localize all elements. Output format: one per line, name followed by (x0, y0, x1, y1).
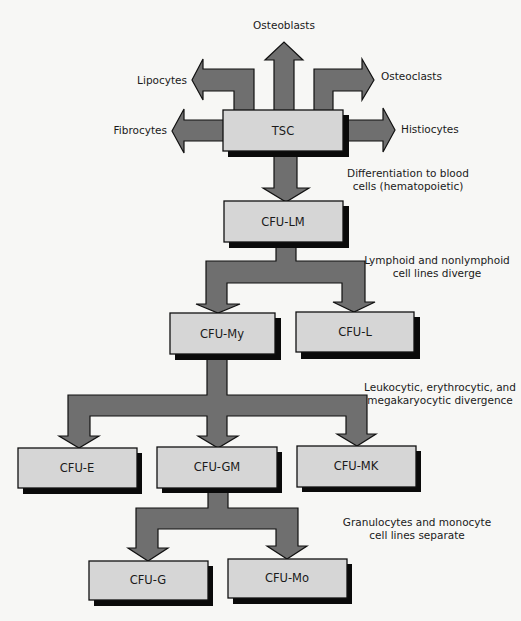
node-cfu-e-label: CFU-E (60, 461, 94, 475)
node-cfu-g: CFU-G (89, 561, 213, 606)
label-osteoclasts: Osteoclasts (381, 70, 442, 82)
node-cfu-g-label: CFU-G (130, 573, 167, 587)
annotation-granulocytes: Granulocytes and monocyte cell lines sep… (343, 516, 491, 541)
label-fibrocytes: Fibrocytes (114, 124, 167, 136)
node-cfu-lm-label: CFU-LM (261, 215, 305, 229)
arrow-tsc-fibrocytes (172, 109, 225, 153)
node-cfu-mo: CFU-Mo (228, 559, 352, 604)
annotation-granulocytes-line2: cell lines separate (369, 529, 465, 541)
arrow-tsc-histiocytes (342, 108, 395, 152)
node-cfu-lm: CFU-LM (224, 201, 349, 248)
arrow-tsc-osteoclasts (314, 59, 374, 112)
annotation-differentiation: Differentiation to blood cells (hematopo… (347, 167, 469, 192)
lineage-diagram: TSC CFU-LM CFU-My CFU-L CFU-E CFU-GM CFU… (0, 0, 521, 621)
annotation-leukocytic-line1: Leukocytic, erythrocytic, and (364, 381, 516, 393)
annotation-lymphoid-line1: Lymphoid and nonlymphoid (364, 254, 510, 266)
node-cfu-my: CFU-My (170, 313, 281, 360)
label-lipocytes: Lipocytes (137, 74, 187, 86)
annotation-leukocytic: Leukocytic, erythrocytic, and megakaryoc… (364, 381, 516, 406)
node-tsc: TSC (223, 110, 349, 157)
annotation-lymphoid-line2: cell lines diverge (393, 267, 482, 279)
node-cfu-my-label: CFU-My (200, 327, 244, 341)
label-histiocytes: Histiocytes (401, 123, 459, 135)
node-cfu-e: CFU-E (18, 448, 142, 494)
annotation-lymphoid: Lymphoid and nonlymphoid cell lines dive… (364, 254, 510, 279)
arrow-cfu-lm-split (196, 240, 375, 313)
annotation-differentiation-line2: cells (hematopoietic) (353, 180, 464, 192)
node-cfu-gm-label: CFU-GM (194, 460, 240, 474)
arrow-tsc-lipocytes (192, 59, 254, 112)
node-cfu-gm: CFU-GM (157, 447, 282, 493)
arrow-cfu-my-split (59, 355, 376, 448)
annotation-granulocytes-line1: Granulocytes and monocyte (343, 516, 491, 528)
arrow-tsc-osteoblasts (265, 42, 303, 112)
node-cfu-mo-label: CFU-Mo (265, 571, 309, 585)
annotation-leukocytic-line2: megakaryocytic divergence (367, 394, 513, 406)
arrow-tsc-cfu-lm (263, 150, 309, 202)
node-cfu-mk-label: CFU-MK (334, 459, 379, 473)
arrow-cfu-gm-split (128, 488, 307, 561)
node-cfu-mk: CFU-MK (297, 446, 421, 492)
label-osteoblasts: Osteoblasts (253, 19, 315, 31)
node-cfu-l: CFU-L (296, 312, 420, 359)
node-cfu-l-label: CFU-L (338, 325, 372, 339)
node-tsc-label: TSC (271, 124, 294, 138)
annotation-differentiation-line1: Differentiation to blood (347, 167, 469, 179)
